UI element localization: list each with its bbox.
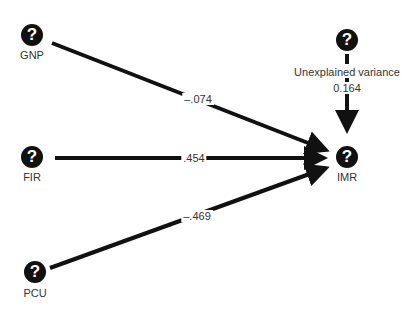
node-label-pcu: PCU [23,287,46,299]
question-circle-icon: ? [24,261,46,283]
path-diagram: ? GNP ? FIR ? PCU ? IMR ? Unexplained va… [0,0,412,317]
unexplained-variance-value: 0.164 [333,82,361,94]
coefficient-fir-imr: .454 [181,152,206,164]
question-circle-icon: ? [21,24,43,46]
coefficient-pcu-imr: –.469 [181,210,213,222]
node-label-gnp: GNP [20,49,44,61]
question-circle-icon: ? [21,146,43,168]
question-circle-icon: ? [336,146,358,168]
coefficient-gnp-imr: –.074 [182,93,214,105]
node-label-fir: FIR [23,171,41,183]
node-label-imr: IMR [337,171,357,183]
node-label-unexplained-variance: Unexplained variance [294,66,400,78]
question-circle-icon: ? [336,29,358,51]
